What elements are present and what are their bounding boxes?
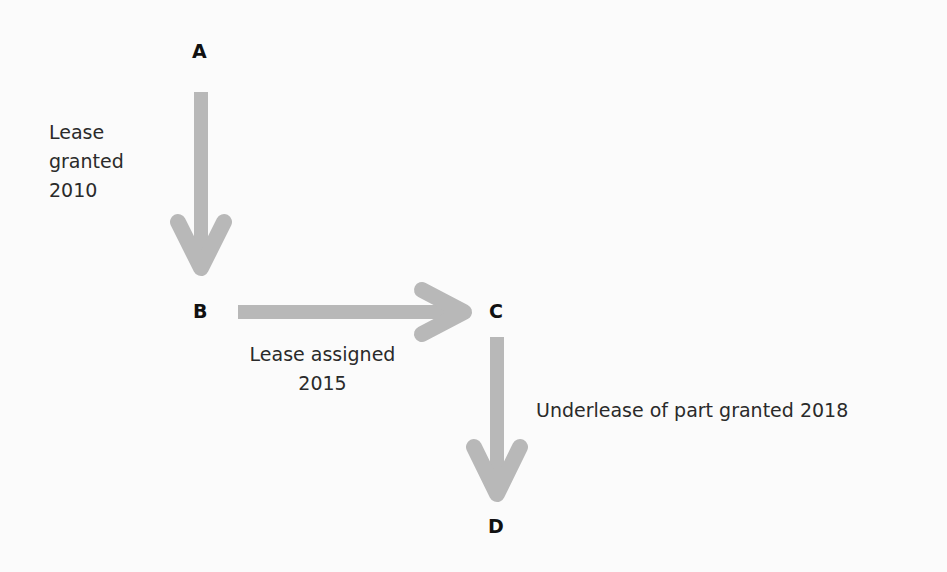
- node-a: A: [192, 40, 207, 62]
- edge-label-line: 2015: [235, 369, 410, 398]
- edge-label-line: granted: [49, 147, 124, 176]
- arrow-c-to-d: [474, 337, 520, 494]
- edge-label-c-d: Underlease of part granted 2018: [536, 396, 848, 425]
- edge-label-line: Lease assigned: [235, 340, 410, 369]
- arrow-b-to-c: [238, 290, 464, 334]
- edge-label-line: 2010: [49, 176, 124, 205]
- node-b: B: [193, 300, 207, 322]
- edge-label-line: Underlease of part granted 2018: [536, 396, 848, 425]
- edge-label-a-b: Lease granted 2010: [49, 118, 124, 205]
- arrows-layer: [0, 0, 947, 572]
- edge-label-b-c: Lease assigned 2015: [235, 340, 410, 398]
- edge-label-line: Lease: [49, 118, 124, 147]
- arrow-a-to-b: [178, 92, 224, 268]
- node-d: D: [488, 515, 504, 537]
- node-c: C: [489, 300, 503, 322]
